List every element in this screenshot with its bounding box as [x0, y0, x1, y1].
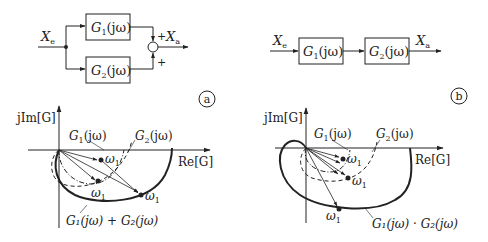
- omega1-point-g1-b: [341, 157, 346, 162]
- block-diagram-a: G1(jω) G2(jω) + + Xe Xa: [38, 14, 188, 83]
- panel-badge-b: b: [451, 88, 467, 104]
- vector-g2b-b: [306, 148, 338, 174]
- input-label-b: Xe: [272, 33, 287, 50]
- block-diagram-b: G1(jω) G2(jω) Xe Xa: [270, 33, 441, 64]
- y-axis-label-b: jIm[G]: [262, 111, 303, 125]
- x-axis-label-b: Re[G]: [415, 153, 450, 167]
- branch-down-line: [66, 47, 85, 69]
- vector-g2-b: [306, 148, 345, 175]
- panel-badge-a: a: [199, 91, 215, 107]
- omega1-point-product-b: [337, 207, 342, 212]
- g2-to-sum-line: [130, 53, 153, 69]
- curve-product-label-b: G₁(jω) · G₂(jω): [372, 217, 458, 231]
- svg-text:b: b: [455, 90, 462, 103]
- omega1-label-g2-a: ω1: [91, 186, 106, 202]
- y-axis-label-a: jIm[G]: [15, 111, 56, 125]
- figure: G1(jω) G2(jω) + + Xe Xa a jIm[G] Re[G]: [0, 0, 488, 242]
- input-label-a: Xe: [40, 29, 55, 46]
- omega1-point-g2-a: [96, 179, 101, 184]
- vector-product-b: [306, 148, 337, 206]
- curve-g2-a: [52, 140, 132, 186]
- branch-up-line: [66, 26, 85, 47]
- svg-text:a: a: [204, 93, 211, 106]
- block-g1-b-label: G1(jω): [303, 44, 343, 61]
- nyquist-plot-a: jIm[G] Re[G] ω1 ω1 ω1 G1(jω) G2(jω) G₁(j…: [15, 106, 213, 228]
- omega1-label-sum-a: ω1: [145, 189, 160, 205]
- leader-g2-b: [372, 140, 380, 152]
- curve-g1-label-a: G1(jω): [69, 129, 107, 145]
- x-axis-label-a: Re[G]: [178, 155, 213, 169]
- sum-sign-bottom: +: [157, 56, 166, 69]
- nyquist-plot-b: jIm[G] Re[G] ω1 ω1 ω1 G1(jω) G2(jω) G₁(j…: [262, 108, 458, 231]
- curve-sum-label-a: G₁(jω) + G₂(jω): [66, 214, 159, 228]
- block-g1-a-label: G1(jω): [91, 20, 131, 37]
- omega1-point-g1-a: [99, 158, 104, 163]
- output-label-a: Xa: [165, 29, 180, 46]
- block-g2-b-label: G2(jω): [369, 44, 409, 61]
- leader-sum-a: [80, 205, 87, 213]
- output-label-b: Xa: [415, 33, 430, 50]
- omega1-point-g2-b: [346, 176, 351, 181]
- omega1-label-g1-a: ω1: [105, 152, 120, 168]
- sum-sign-top: +: [157, 30, 166, 43]
- summing-junction: [148, 42, 158, 52]
- omega1-point-sum-a: [139, 193, 144, 198]
- omega1-label-g2-b: ω1: [352, 174, 367, 190]
- block-g2-a-label: G2(jω): [91, 63, 131, 80]
- curve-g2-label-a: G2(jω): [135, 129, 173, 145]
- curve-g1-label-b: G1(jω): [314, 127, 352, 143]
- curve-g2-label-b: G2(jω): [376, 127, 414, 143]
- omega1-label-g1-b: ω1: [347, 152, 362, 168]
- g1-to-sum-line: [130, 27, 153, 41]
- curve-product-b: [280, 141, 411, 209]
